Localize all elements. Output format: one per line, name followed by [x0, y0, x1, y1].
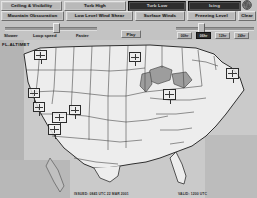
station-symbol-box — [163, 89, 176, 100]
clear-button[interactable]: Clear — [238, 11, 256, 21]
frame-slider-track[interactable] — [176, 27, 254, 31]
product-button-turb-low[interactable]: Turb Low — [128, 1, 186, 11]
station-symbol-box — [34, 50, 47, 60]
loop-speed-slider-knob[interactable] — [53, 23, 60, 33]
us-map-graphic — [0, 40, 257, 198]
toolbar-row-1: Ceiling & Visibility Turb High Turb Low … — [1, 1, 241, 11]
forecast-hour-button-1[interactable]: 00hr — [177, 32, 192, 39]
product-button-mountain-obscuration[interactable]: Mountain Obscuration — [1, 11, 64, 21]
station-wind-stem — [55, 134, 56, 139]
forecast-hour-buttons: 00hr 06hr 12hr 24hr — [177, 32, 249, 39]
station-symbol-box — [28, 88, 40, 98]
station-plot-n-dakota[interactable] — [129, 52, 141, 62]
station-symbol-box — [226, 68, 239, 79]
map-timestamp-issued: ISSUED: 0845 UTC 22 MAR 2001 — [74, 192, 129, 196]
station-plot-s-utah[interactable] — [69, 105, 81, 115]
station-plot-northeast[interactable] — [226, 68, 239, 79]
play-button[interactable]: Play — [121, 30, 141, 38]
station-wind-stem — [170, 99, 171, 104]
station-plot-c-nevada[interactable] — [52, 112, 67, 123]
station-wind-stem — [75, 114, 76, 119]
toolbar: Ceiling & Visibility Turb High Turb Low … — [0, 0, 257, 22]
loop-speed-max-label: Faster — [76, 33, 89, 38]
loop-speed-center-label: Loop speed — [33, 33, 57, 38]
loop-speed-slider-track[interactable] — [5, 27, 97, 31]
station-symbol-box — [52, 112, 67, 123]
product-button-icing[interactable]: Icing — [188, 1, 241, 11]
toolbar-row-2: Mountain Obscuration Low Level Wind Shea… — [1, 11, 256, 21]
forecast-hour-button-4[interactable]: 24hr — [234, 32, 249, 39]
product-button-low-level-wind-shear[interactable]: Low Level Wind Shear — [66, 11, 133, 21]
product-button-turb-high[interactable]: Turb High — [64, 1, 126, 11]
station-plot-n-california[interactable] — [33, 102, 45, 112]
station-symbol-box — [129, 52, 141, 62]
map-title-label: FL-ALTIMET — [2, 42, 30, 47]
forecast-hour-button-2[interactable]: 06hr — [196, 32, 211, 39]
weather-map[interactable]: FL-ALTIMET ISSUED: 0845 UTC 22 MAR 2001 … — [0, 40, 257, 198]
station-symbol-box — [69, 105, 81, 115]
station-symbol-box — [33, 102, 45, 112]
station-plot-nw-washington[interactable] — [34, 50, 47, 60]
map-timestamp-valid: VALID: 1200 UTC — [178, 192, 207, 196]
station-symbol-box — [48, 124, 61, 135]
frame-slider[interactable] — [176, 23, 254, 31]
application-window: Ceiling & Visibility Turb High Turb Low … — [0, 0, 257, 198]
station-wind-stem — [135, 61, 136, 66]
station-plot-illinois[interactable] — [163, 89, 176, 100]
loop-speed-min-label: Slower — [4, 33, 18, 38]
station-plot-w-montana[interactable] — [28, 88, 40, 98]
globe-icon[interactable] — [240, 0, 254, 11]
product-button-freezing-level[interactable]: Freezing Level — [187, 11, 236, 21]
product-button-surface-winds[interactable]: Surface Winds — [135, 11, 185, 21]
station-wind-stem — [41, 59, 42, 64]
animation-controls: Slower Loop speed Faster Play 00hr 06hr … — [0, 22, 257, 40]
product-button-ceiling-visibility[interactable]: Ceiling & Visibility — [1, 1, 62, 11]
station-wind-stem — [233, 78, 234, 83]
station-wind-stem — [39, 111, 40, 116]
station-plot-s-california[interactable] — [48, 124, 61, 135]
forecast-hour-button-3[interactable]: 12hr — [215, 32, 230, 39]
loop-speed-slider[interactable] — [5, 23, 97, 31]
